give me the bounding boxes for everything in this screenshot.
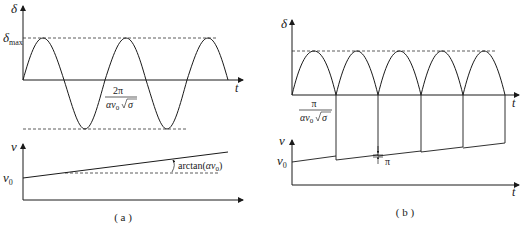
sawtooth-velocity-curve (292, 143, 505, 162)
delta-axis-label: δ (11, 1, 18, 16)
caption-b: ( b ) (396, 206, 415, 219)
panel-b-velocity-plot: v v0 π t (277, 133, 519, 199)
v0-label-b: v0 (277, 153, 287, 170)
delta-axis-label-b: δ (281, 16, 288, 31)
slope-angle-label: arctan(αv0) (178, 160, 222, 173)
reset-vertical-lines (336, 95, 505, 160)
svg-text:σ: σ (322, 112, 328, 123)
angle-arc-arrow (172, 160, 174, 172)
velocity-axis-label-b: v (279, 133, 285, 148)
jump-label: π (385, 156, 390, 167)
figure-canvas: δ δmax t 2π αv0 σ v v0 (0, 0, 521, 226)
panel-a: δ δmax t 2π αv0 σ v v0 (3, 1, 243, 224)
panel-a-velocity-plot: v v0 arctan(αv0) (3, 139, 243, 200)
time-axis-label-b-bottom: t (512, 185, 516, 199)
jump-indicator (373, 146, 383, 164)
period-label-a: 2π αv0 σ (105, 85, 137, 112)
panel-b: δ t π αv0 σ v (277, 16, 519, 219)
svg-text:αv0: αv0 (106, 99, 120, 112)
rectified-sine-curve (292, 51, 505, 95)
time-axis-label: t (235, 81, 239, 95)
svg-text:π: π (311, 98, 316, 109)
svg-text:αv0: αv0 (300, 112, 314, 125)
time-axis-label-b: t (512, 96, 516, 110)
panel-a-delta-plot: δ δmax t 2π αv0 σ (3, 1, 243, 129)
period-label-b: π αv0 σ (299, 98, 332, 125)
svg-text:σ: σ (128, 99, 134, 110)
v0-label: v0 (3, 170, 13, 187)
svg-text:2π: 2π (113, 85, 123, 96)
caption-a: ( a ) (114, 211, 132, 224)
panel-b-delta-plot: δ t π αv0 σ (281, 16, 519, 160)
velocity-axis-label: v (11, 139, 17, 154)
sine-wave-curve (23, 38, 228, 129)
delta-max-label: δmax (3, 30, 23, 47)
